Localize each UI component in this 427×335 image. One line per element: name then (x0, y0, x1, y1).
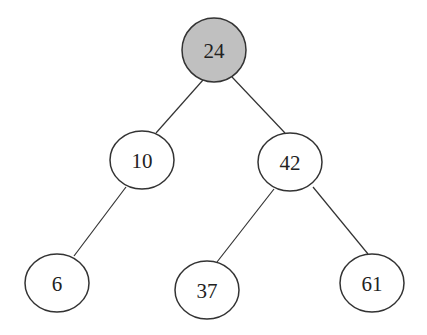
edge-n10-n6 (74, 187, 126, 256)
node-label: 10 (132, 149, 153, 173)
tree-node-6: 6 (25, 254, 89, 312)
edge-n24-n42 (232, 77, 285, 133)
node-label: 37 (197, 279, 218, 303)
tree-node-42: 42 (258, 133, 322, 191)
node-label: 6 (52, 272, 63, 296)
tree-diagram: 24104263761 (0, 0, 427, 335)
edge-n24-n10 (156, 80, 203, 133)
node-label: 24 (204, 39, 226, 63)
edge-n42-n61 (313, 187, 368, 254)
tree-nodes: 24104263761 (25, 18, 404, 319)
tree-node-24: 24 (182, 18, 246, 82)
node-label: 61 (362, 272, 383, 296)
tree-node-61: 61 (340, 254, 404, 312)
tree-node-37: 37 (175, 261, 239, 319)
tree-node-10: 10 (110, 131, 174, 189)
node-label: 42 (280, 151, 301, 175)
edge-n42-n37 (217, 189, 274, 262)
